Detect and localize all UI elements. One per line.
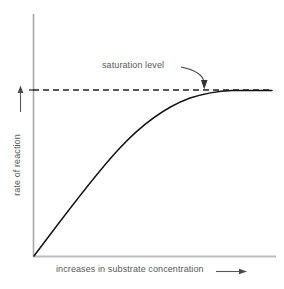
enzyme-saturation-chart: saturation level increases in substrate … [0,0,284,289]
chart-canvas [0,0,284,289]
x-axis-title: increases in substrate concentration [56,264,204,274]
reaction-rate-curve [34,90,272,256]
x-axis-title-arrow-head [239,269,247,275]
y-axis-title-arrow-head [18,86,24,94]
saturation-level-annotation: saturation level [102,60,164,70]
y-axis-title: rate of reaction [12,120,22,210]
saturation-callout-arrow [181,67,204,82]
saturation-callout-arrowhead [201,80,208,90]
